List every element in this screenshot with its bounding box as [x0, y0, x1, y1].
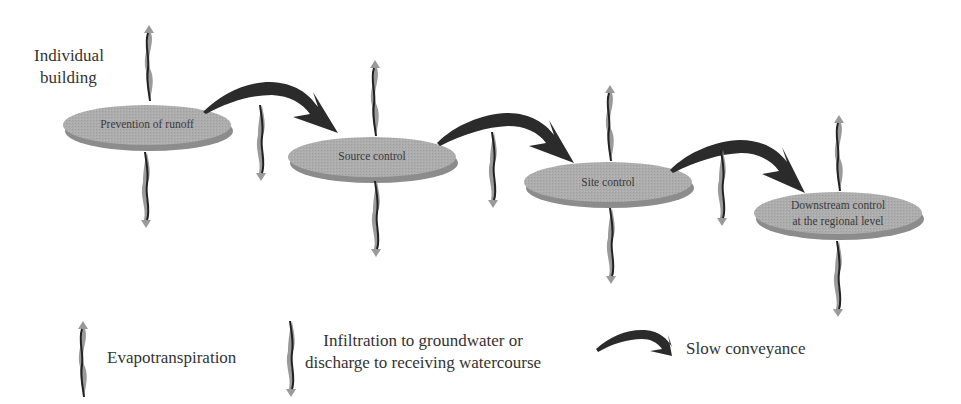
node-downstream-label-line1: Downstream control	[763, 197, 913, 213]
legend-conveyance-arrow	[596, 330, 672, 356]
legend-infiltration-line1: Infiltration to groundwater or	[305, 330, 541, 352]
node-prevention-label: Prevention of runoff	[72, 116, 222, 132]
start-label-line1: Individual	[34, 45, 104, 67]
legend-infiltration-label: Infiltration to groundwater or discharge…	[305, 330, 541, 374]
conveyance-arrow-2	[437, 113, 574, 163]
evapotranspiration-arrow-3	[605, 85, 615, 161]
start-label-line2: building	[34, 67, 104, 89]
legend-evapotranspiration-icon	[78, 321, 88, 397]
evapotranspiration-arrow-4	[834, 115, 844, 191]
node-site-label: Site control	[533, 174, 683, 190]
evapotranspiration-arrow-2	[370, 60, 380, 136]
infiltration-arrow-1	[141, 152, 151, 228]
infiltration-arrow-3	[606, 208, 616, 284]
infiltration-arrow-between-1-2	[256, 105, 266, 181]
legend-infiltration-icon	[286, 321, 296, 397]
conveyance-arrows	[203, 82, 805, 356]
infiltration-arrow-between-2-3	[488, 132, 498, 208]
node-downstream-label-line2: at the regional level	[763, 213, 913, 229]
infiltration-arrow-2	[371, 181, 381, 257]
legend-conveyance-label: Slow conveyance	[686, 338, 805, 360]
start-label: Individual building	[34, 45, 104, 89]
infiltration-arrow-between-3-4	[717, 150, 727, 226]
legend-infiltration-line2: discharge to receiving watercourse	[305, 352, 541, 374]
infiltration-arrow-4	[833, 241, 843, 317]
evapotranspiration-arrow-1	[144, 25, 154, 101]
legend-evapotranspiration-label: Evapotranspiration	[107, 347, 236, 369]
node-downstream-label: Downstream control at the regional level	[763, 197, 913, 229]
node-source-label: Source control	[297, 148, 447, 164]
